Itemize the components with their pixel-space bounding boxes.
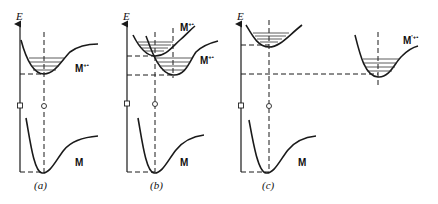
label-neutral-c: M bbox=[298, 157, 306, 168]
potential-energy-diagram: E M+• M (a) E bbox=[0, 0, 438, 204]
label-neutral-a: M bbox=[75, 157, 83, 168]
label-ion-b1: M+• bbox=[180, 21, 194, 33]
ion-potential-curve-a bbox=[21, 40, 98, 74]
neutral-potential-curve-a bbox=[26, 118, 98, 173]
axis-label-e-c: E bbox=[236, 10, 244, 22]
panel-b: E M+• M+• M (b) bbox=[122, 10, 218, 192]
transition-marker-a bbox=[42, 104, 47, 109]
transition-marker-b bbox=[153, 102, 158, 107]
axis-label-e-b: E bbox=[122, 10, 130, 22]
axis-marker-a bbox=[18, 103, 23, 108]
label-shifted-ion-c: M'+• bbox=[403, 34, 418, 46]
label-ion-a: M+• bbox=[75, 62, 89, 74]
transition-marker-c bbox=[267, 104, 272, 109]
panel-c: E M'+• M (c) bbox=[236, 10, 418, 192]
vibrational-levels-shifted bbox=[363, 59, 399, 71]
label-ion-b2: M+• bbox=[200, 54, 214, 66]
caption-a: (a) bbox=[34, 179, 47, 192]
label-neutral-b: M bbox=[180, 157, 188, 168]
axis-marker-b bbox=[125, 101, 130, 106]
caption-c: (c) bbox=[262, 179, 275, 192]
axis-marker-c bbox=[239, 103, 244, 108]
panel-a: E M+• M (a) bbox=[15, 10, 98, 192]
axis-label-e-a: E bbox=[15, 10, 23, 22]
neutral-potential-curve-b bbox=[138, 118, 204, 173]
caption-b: (b) bbox=[150, 179, 163, 192]
